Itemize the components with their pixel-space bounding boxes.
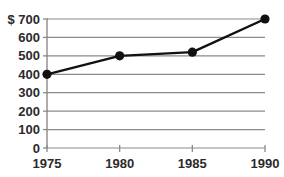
data-point-marker <box>188 48 197 57</box>
y-tick-label: $ 700 <box>7 12 40 27</box>
y-tick-label: 400 <box>18 67 40 82</box>
data-point-marker <box>260 14 269 23</box>
line-chart: 0100200300400500600$ 700 197519801985199… <box>0 0 284 177</box>
chart-background <box>0 0 284 177</box>
chart-canvas: 0100200300400500600$ 700 197519801985199… <box>0 0 284 177</box>
data-point-marker <box>115 51 124 60</box>
y-tick-label: 600 <box>18 30 40 45</box>
x-tick-label: 1985 <box>178 156 207 171</box>
y-tick-label: 0 <box>33 141 40 156</box>
y-tick-label: 300 <box>18 85 40 100</box>
x-tick-label: 1975 <box>33 156 62 171</box>
x-tick-label: 1990 <box>251 156 280 171</box>
x-tick-label: 1980 <box>105 156 134 171</box>
y-tick-label: 200 <box>18 104 40 119</box>
y-tick-label: 100 <box>18 122 40 137</box>
data-point-marker <box>42 70 51 79</box>
y-tick-label: 500 <box>18 48 40 63</box>
